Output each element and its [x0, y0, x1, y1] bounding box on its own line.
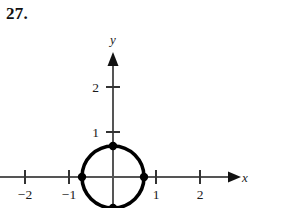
x-tick-label-2: 2 [197, 187, 204, 202]
marked-point-bottom [109, 204, 117, 208]
coordinate-plane-graph: −2 −1 1 2 1 2 x y [0, 0, 294, 208]
x-tick-label-1: 1 [153, 187, 160, 202]
y-tick-label-1: 1 [92, 125, 99, 140]
y-tick-label-2: 2 [92, 80, 99, 95]
marked-point-right [140, 173, 148, 181]
y-axis-label: y [108, 32, 116, 47]
marked-point-top [109, 142, 117, 150]
marked-point-left [78, 173, 86, 181]
figure-container: 27. −2 −1 1 2 1 2 x y [0, 0, 294, 208]
x-tick-label-neg2: −2 [18, 187, 32, 202]
x-axis-label: x [241, 170, 248, 185]
x-axis-arrowhead [228, 172, 241, 183]
y-axis-arrowhead [108, 52, 119, 66]
x-tick-label-neg1: −1 [62, 187, 76, 202]
